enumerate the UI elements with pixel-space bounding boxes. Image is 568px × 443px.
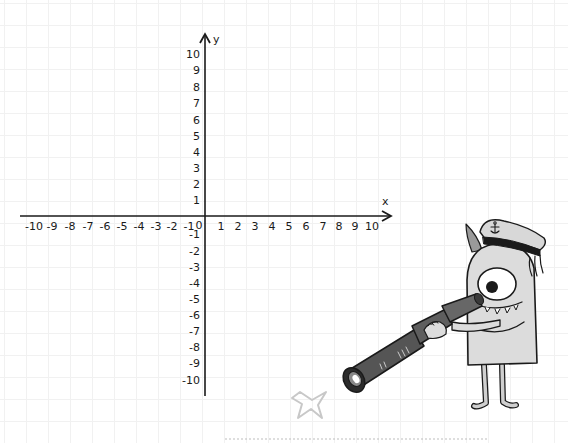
y-tick-label: -8 [189,341,200,354]
y-tick-label: 6 [193,114,200,127]
y-tick-label: 8 [193,81,200,94]
x-tick-label: 8 [336,220,343,233]
x-tick-label: 1 [218,220,225,233]
x-tick-label: 9 [352,220,359,233]
y-tick-label: -4 [189,277,200,290]
x-tick-label: -2 [167,220,178,233]
x-tick-label: 6 [303,220,310,233]
x-negative-tick-labels: -10 -9 -8 -7 -6 -5 -4 -3 -2 -1 [25,220,194,233]
monster-pupil [486,281,498,293]
y-tick-label: -6 [189,309,200,322]
monster-horn [466,224,482,252]
coordinate-plane: x y -10 -9 -8 -7 -6 -5 -4 -3 -2 -1 0 1 2… [0,0,568,443]
x-tick-label: 2 [235,220,242,233]
x-tick-label: 10 [365,220,379,233]
x-tick-label: 7 [320,220,327,233]
x-positive-tick-labels: 1 2 3 4 5 6 7 8 9 10 [218,220,380,233]
y-tick-label: 2 [193,178,200,191]
y-tick-label: -9 [189,357,200,370]
y-tick-label: 9 [193,64,200,77]
y-tick-label: 3 [193,162,200,175]
x-tick-label: 4 [269,220,276,233]
y-axis: y [200,33,220,396]
y-tick-label: -2 [189,245,200,258]
y-tick-label: 5 [193,130,200,143]
y-tick-label: 10 [186,48,200,61]
star-outline-icon [292,392,326,418]
x-tick-label: -9 [47,220,58,233]
y-tick-label: 7 [193,97,200,110]
y-tick-label: 4 [193,146,200,159]
y-tick-label: -1 [189,228,200,241]
y-tick-label: -3 [189,261,200,274]
telescope-icon [339,292,486,397]
x-tick-label: 3 [252,220,259,233]
y-tick-label: -10 [182,374,200,387]
y-tick-label: -5 [189,293,200,306]
y-tick-label: -7 [189,325,200,338]
x-tick-label: -10 [25,220,43,233]
y-tick-label: 1 [193,194,200,207]
x-tick-label: -3 [151,220,162,233]
y-positive-tick-labels: 10 9 8 7 6 5 4 3 2 1 [186,48,200,207]
monster-illustration [339,220,546,407]
x-axis-label: x [382,195,389,208]
x-tick-label: -8 [65,220,76,233]
x-tick-label: 5 [286,220,293,233]
y-axis-label: y [213,33,220,46]
x-tick-label: -4 [134,220,145,233]
x-tick-label: -7 [83,220,94,233]
x-tick-label: -6 [100,220,111,233]
y-negative-tick-labels: -1 -2 -3 -4 -5 -6 -7 -8 -9 -10 [182,228,200,387]
x-tick-label: -5 [117,220,128,233]
